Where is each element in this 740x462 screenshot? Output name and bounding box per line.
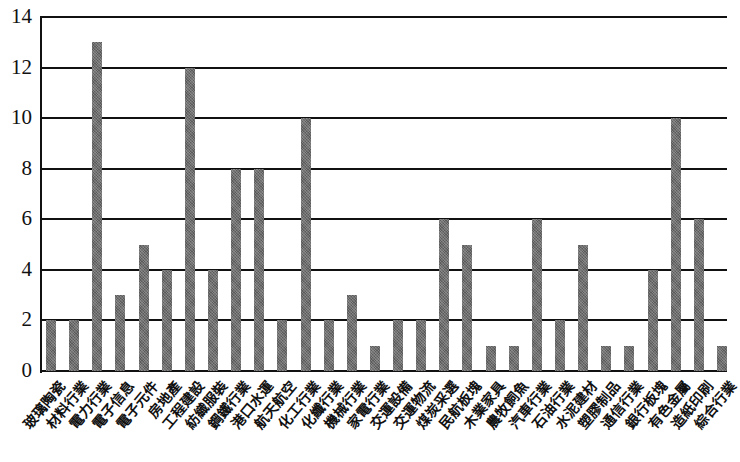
bar-14 [347, 295, 357, 371]
bar-25 [601, 346, 611, 371]
y-tick-label: 8 [2, 158, 32, 178]
gridline-14 [40, 16, 727, 18]
bar-29 [694, 219, 704, 371]
gridline-8 [40, 168, 727, 170]
gridline-6 [40, 218, 727, 220]
y-tick-label: 14 [2, 6, 32, 26]
gridline-12 [40, 67, 727, 69]
bar-17 [416, 320, 426, 371]
y-tick-label: 0 [2, 360, 32, 380]
bar-8 [208, 270, 218, 371]
bar-2 [69, 320, 79, 371]
bar-19 [462, 245, 472, 371]
bar-22 [532, 219, 542, 371]
bar-11 [277, 320, 287, 371]
bar-6 [162, 270, 172, 371]
y-tick-label: 6 [2, 208, 32, 228]
bar-4 [115, 295, 125, 371]
bar-7 [185, 68, 195, 371]
y-tick-label: 2 [2, 309, 32, 329]
bar-23 [555, 320, 565, 371]
gridline-10 [40, 117, 727, 119]
bar-3 [92, 42, 102, 371]
bar-13 [324, 320, 334, 371]
y-tick-label: 10 [2, 107, 32, 127]
y-tick-label: 12 [2, 57, 32, 77]
bar-10 [254, 169, 264, 371]
bar-15 [370, 346, 380, 371]
bar-27 [648, 270, 658, 371]
bar-26 [624, 346, 634, 371]
y-tick-label: 4 [2, 259, 32, 279]
bar-5 [139, 245, 149, 371]
bar-24 [578, 245, 588, 371]
bar-1 [46, 320, 56, 371]
bar-18 [439, 219, 449, 371]
bar-28 [671, 118, 681, 371]
bar-21 [509, 346, 519, 371]
bar-16 [393, 320, 403, 371]
bar-9 [231, 169, 241, 371]
bar-12 [301, 118, 311, 371]
bar-30 [717, 346, 727, 371]
bar-20 [486, 346, 496, 371]
